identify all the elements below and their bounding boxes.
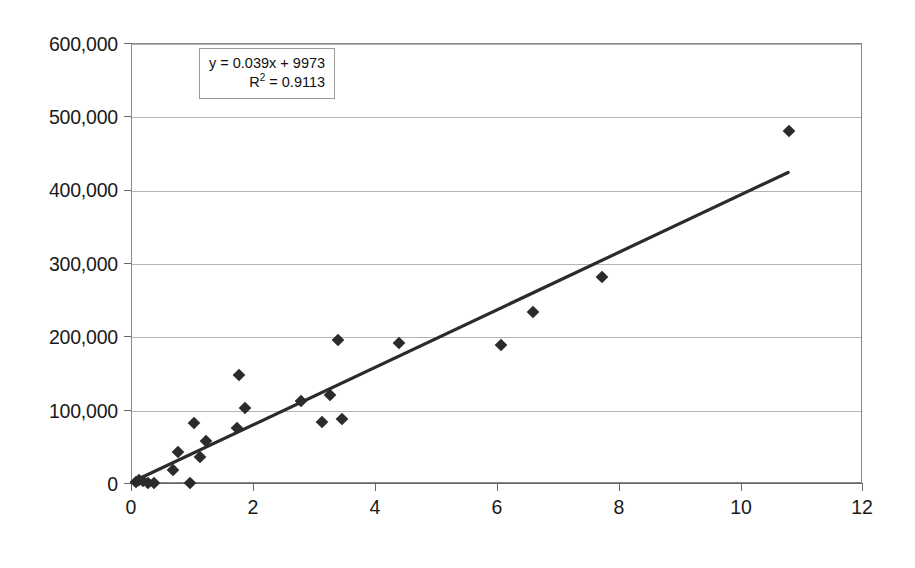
data-point — [336, 413, 349, 426]
data-point — [494, 339, 507, 352]
x-tick-label: 12 — [832, 496, 892, 519]
y-tick-label: 500,000 — [0, 106, 118, 129]
x-tick-label: 0 — [101, 496, 161, 519]
y-tick-label: 0 — [0, 473, 118, 496]
x-tick-mark — [619, 484, 620, 491]
x-tick-mark — [741, 484, 742, 491]
x-tick-mark — [497, 484, 498, 491]
data-point — [239, 401, 252, 414]
y-tick-label: 400,000 — [0, 179, 118, 202]
y-tick-label: 600,000 — [0, 33, 118, 56]
y-tick-label: 300,000 — [0, 253, 118, 276]
data-point — [230, 422, 243, 435]
y-tick-mark — [124, 43, 131, 44]
trendline-segment — [132, 172, 788, 482]
x-tick-mark — [862, 484, 863, 491]
data-point — [194, 450, 207, 463]
r-squared-value: = 0.9113 — [265, 74, 325, 90]
gridline — [132, 264, 861, 265]
x-tick-label: 8 — [589, 496, 649, 519]
plot-area — [131, 43, 862, 483]
gridline — [132, 117, 861, 118]
r-squared-prefix: R — [249, 74, 259, 90]
gridline — [132, 337, 861, 338]
y-tick-mark — [124, 263, 131, 264]
x-tick-mark — [375, 484, 376, 491]
gridline — [132, 44, 861, 45]
data-point — [200, 435, 213, 448]
data-point — [171, 445, 184, 458]
x-tick-label: 4 — [345, 496, 405, 519]
x-tick-label: 6 — [467, 496, 527, 519]
data-point — [324, 388, 337, 401]
y-tick-label: 200,000 — [0, 326, 118, 349]
trendline — [132, 44, 861, 482]
y-tick-mark — [124, 336, 131, 337]
x-tick-mark — [253, 484, 254, 491]
data-point — [295, 395, 308, 408]
y-tick-mark — [124, 410, 131, 411]
data-point — [526, 305, 539, 318]
y-tick-mark — [124, 190, 131, 191]
trendline-equation-box: y = 0.039x + 9973 R2 = 0.9113 — [199, 48, 335, 99]
data-point — [167, 464, 180, 477]
r-squared-text: R2 = 0.9113 — [209, 73, 325, 92]
data-point — [233, 369, 246, 382]
data-point — [332, 334, 345, 347]
x-tick-label: 10 — [711, 496, 771, 519]
y-tick-label: 100,000 — [0, 400, 118, 423]
data-point — [183, 477, 196, 490]
equation-text: y = 0.039x + 9973 — [209, 54, 325, 73]
data-point — [188, 417, 201, 430]
data-point — [782, 125, 795, 138]
y-tick-mark — [124, 116, 131, 117]
data-point — [596, 271, 609, 284]
scatter-chart: 600,000 500,000 400,000 300,000 200,000 … — [0, 0, 915, 568]
data-point — [392, 337, 405, 350]
gridline — [132, 191, 861, 192]
x-tick-label: 2 — [223, 496, 283, 519]
data-point — [316, 415, 329, 428]
